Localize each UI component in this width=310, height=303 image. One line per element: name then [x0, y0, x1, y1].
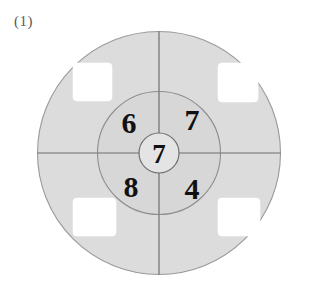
cutout-square-top-right [218, 63, 258, 102]
center-number: 7 [152, 139, 166, 169]
quadrant-number-bottom-left: 8 [124, 170, 139, 203]
cutout-square-bottom-right [218, 198, 260, 236]
quadrant-number-top-left: 6 [122, 106, 137, 139]
cutout-square-bottom-left [73, 198, 116, 236]
cutout-square-top-left [73, 63, 112, 101]
quadrant-number-bottom-right: 4 [185, 172, 200, 205]
figure-root: (1) 6 7 8 4 7 [0, 0, 310, 303]
concentric-circle-diagram: 6 7 8 4 7 [0, 0, 310, 303]
quadrant-number-top-right: 7 [185, 103, 200, 136]
